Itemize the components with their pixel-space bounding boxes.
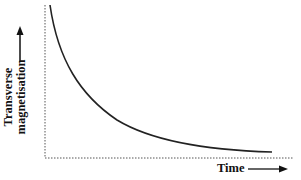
- x-axis-label: Time: [217, 161, 245, 176]
- y-axis-label-line2: magnetisation: [15, 32, 28, 162]
- right-arrow-icon: [248, 166, 288, 173]
- y-axis-label: Transverse magnetisation: [2, 32, 28, 162]
- decay-diagram: [0, 0, 301, 180]
- decay-curve: [50, 5, 272, 152]
